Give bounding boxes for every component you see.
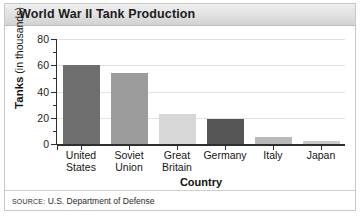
x-tick-label: GreatBritain — [153, 150, 201, 173]
x-tick-label-line: Union — [105, 162, 153, 174]
y-tick-label: 60 — [3, 60, 49, 71]
x-axis-line — [57, 144, 345, 146]
y-axis-title-strong: Tanks — [13, 77, 25, 109]
x-tick-label-line: Japan — [297, 150, 345, 162]
bar — [207, 119, 244, 144]
source-text: U.S. Department of Defense — [48, 196, 155, 206]
y-tick-label: 20 — [3, 113, 49, 124]
x-tick-label-line: Soviet — [105, 150, 153, 162]
x-tick-label-line: United — [57, 150, 105, 162]
x-tick-label-line: Great — [153, 150, 201, 162]
bar — [63, 65, 100, 144]
x-tick-label: Japan — [297, 150, 345, 162]
x-axis-title: Country — [57, 176, 345, 188]
x-tick-label-line: Italy — [249, 150, 297, 162]
y-tick-label: 80 — [3, 34, 49, 45]
x-tick-label: SovietUnion — [105, 150, 153, 173]
title-banner: World War II Tank Production — [5, 4, 355, 26]
y-tick-label: 40 — [3, 87, 49, 98]
bar — [111, 73, 148, 144]
x-tick-label: Germany — [201, 150, 249, 162]
x-tick-label-line: Germany — [201, 150, 249, 162]
x-tick-label: UnitedStates — [57, 150, 105, 173]
chart-figure: World War II Tank Production 020406080 U… — [0, 0, 360, 216]
source-prefix: SOURCE: — [12, 198, 45, 205]
source-note: SOURCE: U.S. Department of Defense — [12, 196, 154, 206]
x-tick-label-line: Britain — [153, 162, 201, 174]
y-axis-title: Tanks (in thousands) — [13, 0, 25, 118]
y-axis-line — [56, 39, 57, 145]
bar — [159, 114, 196, 144]
y-tick-label: 0 — [3, 139, 49, 150]
bar-series — [57, 39, 345, 144]
y-axis-title-rest: (in thousands) — [13, 7, 25, 76]
source-divider — [5, 190, 355, 191]
x-tick-label-line: States — [57, 162, 105, 174]
x-tick-label: Italy — [249, 150, 297, 162]
